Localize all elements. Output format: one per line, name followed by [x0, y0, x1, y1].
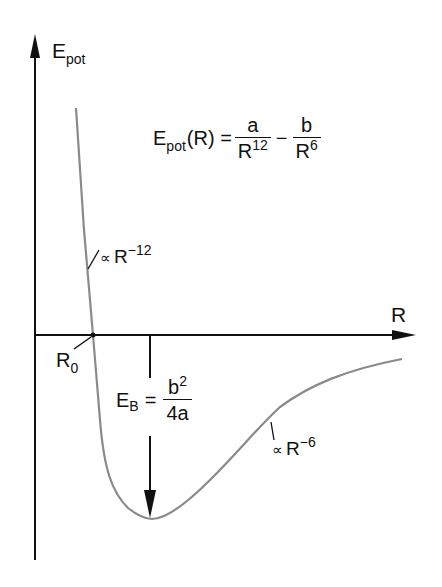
repulsive-base: R [114, 246, 128, 267]
formula-lhs-main: E [153, 127, 166, 149]
formula-operator: − [276, 128, 288, 148]
eb-num-exp: 2 [179, 373, 187, 389]
attractive-base: R [286, 438, 300, 459]
repulsive-leader [88, 250, 99, 269]
y-axis-label-main: E [52, 39, 66, 62]
term2-denominator: R6 [293, 137, 321, 161]
eb-equals: = [145, 390, 157, 410]
y-axis-label-sub: pot [66, 51, 85, 67]
term1-denominator: R12 [235, 137, 271, 161]
y-axis-arrowhead [30, 34, 40, 58]
term1-numerator: a [244, 115, 261, 137]
x-axis-label: R [391, 304, 406, 325]
r0-main: R [56, 349, 70, 371]
formula-lhs: Epot(R) = [153, 128, 232, 148]
binding-energy-label: EB = b2 4a [116, 377, 195, 423]
r0-leader [74, 337, 91, 349]
formula-term1: a R12 [235, 115, 271, 161]
eb-numerator: b2 [165, 377, 190, 399]
potential-curve [76, 108, 402, 519]
eb-fraction: b2 4a [163, 377, 191, 423]
formula-lhs-sub: pot [166, 138, 185, 154]
potential-formula: Epot(R) = a R12 − b R6 [153, 115, 324, 161]
r0-sub: 0 [70, 360, 78, 376]
eb-sub: B [129, 399, 138, 413]
term1-den-exp: 12 [252, 137, 268, 153]
eb-num-base: b [168, 376, 179, 398]
attractive-exp: −6 [300, 434, 316, 450]
formula-term2: b R6 [293, 115, 321, 161]
formula-lhs-arg: (R) = [187, 127, 232, 149]
x-axis-label-text: R [391, 303, 406, 326]
proportional-symbol: ∝ [100, 249, 111, 266]
term2-numerator: b [298, 115, 315, 137]
potential-diagram-canvas [0, 0, 442, 587]
term2-den-base: R [296, 140, 310, 162]
repulsive-exp: −12 [128, 242, 152, 258]
r0-label: R0 [56, 350, 78, 370]
eb-denominator: 4a [163, 399, 191, 423]
attractive-leader [271, 422, 274, 440]
binding-energy-arrowhead [144, 490, 156, 518]
term2-den-exp: 6 [310, 137, 318, 153]
proportional-symbol: ∝ [272, 441, 283, 458]
x-axis-arrowhead [392, 330, 416, 340]
repulsive-annotation: ∝R−12 [100, 247, 151, 266]
term1-den-base: R [238, 140, 252, 162]
y-axis-label: Epot [52, 40, 85, 61]
eb-main: E [116, 390, 129, 410]
attractive-annotation: ∝R−6 [272, 439, 316, 458]
r0-point [91, 333, 96, 338]
